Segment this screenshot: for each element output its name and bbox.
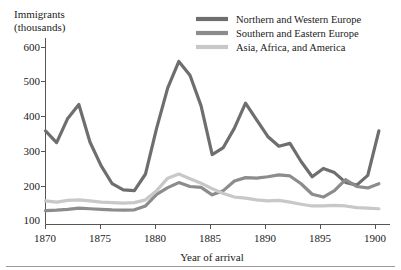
y-tick-label: 500 [24, 75, 41, 87]
x-axis-ticks [46, 225, 376, 230]
y-tick-label: 300 [24, 145, 41, 157]
y-tick-label: 100 [24, 214, 41, 226]
legend-label: Northern and Western Europe [236, 14, 362, 25]
y-tick-label: 400 [24, 110, 41, 122]
legend-label: Southern and Eastern Europe [236, 28, 359, 39]
x-tick-label: 1880 [144, 232, 167, 244]
x-tick-label: 1890 [254, 232, 277, 244]
legend-label: Asia, Africa, and America [236, 42, 346, 53]
x-tick-label: 1870 [34, 232, 57, 244]
chart-legend: Northern and Western EuropeSouthern and … [196, 14, 362, 53]
y-axis-label-line1: Immigrants [14, 8, 65, 20]
y-axis-label-line2: (thousands) [14, 21, 66, 34]
x-tick-label: 1885 [199, 232, 222, 244]
y-tick-label: 200 [24, 180, 41, 192]
x-tick-label: 1900 [364, 232, 387, 244]
series-line [46, 61, 379, 190]
x-axis-tick-labels: 1870 1875 1880 1885 1890 1895 1900 [34, 232, 387, 244]
y-tick-label: 600 [24, 41, 41, 53]
x-axis-label: Year of arrival [180, 251, 244, 263]
x-tick-label: 1895 [309, 232, 332, 244]
y-axis-tick-labels: 600 500 400 300 200 100 [24, 41, 41, 226]
immigration-line-chart: Immigrants (thousands) 600 500 400 300 2… [0, 0, 401, 270]
y-axis-ticks [41, 48, 46, 187]
x-tick-label: 1875 [89, 232, 112, 244]
series-line [46, 174, 379, 209]
plot-series-group [46, 61, 379, 210]
